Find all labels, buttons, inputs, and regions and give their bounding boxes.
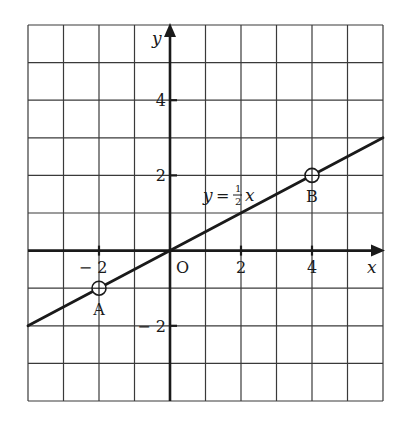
coordinate-plane: − 22442− 2 AB y x O y = 1 2 x <box>0 0 403 429</box>
svg-text:=: = <box>216 186 229 205</box>
point-a: A <box>92 281 106 319</box>
point-label: B <box>306 187 318 206</box>
axes <box>28 23 385 401</box>
x-tick-label: 2 <box>236 258 246 277</box>
y-tick-label: 2 <box>156 166 166 185</box>
equation-label: y = 1 2 x <box>202 183 255 207</box>
point-label: A <box>92 300 105 319</box>
svg-text:1: 1 <box>235 183 241 194</box>
x-tick-label: − 2 <box>79 258 108 277</box>
x-axis-label: x <box>367 257 377 277</box>
y-axis-label: y <box>151 28 162 48</box>
svg-text:x: x <box>245 185 255 205</box>
svg-text:y: y <box>202 185 213 205</box>
x-tick-label: 4 <box>307 258 317 277</box>
grid <box>28 25 383 401</box>
origin-label: O <box>176 258 189 277</box>
svg-text:2: 2 <box>235 196 241 207</box>
y-tick-label: − 2 <box>137 317 166 336</box>
y-tick-label: 4 <box>156 91 166 110</box>
point-b: B <box>305 168 319 206</box>
